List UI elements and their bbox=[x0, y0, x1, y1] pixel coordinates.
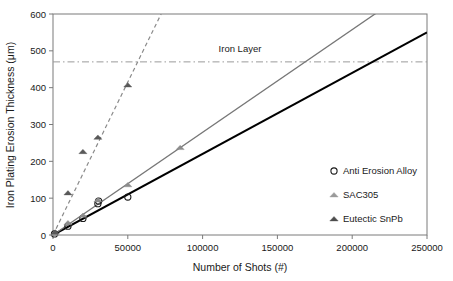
legend-label-sac305: SAC305 bbox=[343, 189, 378, 200]
legend-label-anti-erosion-alloy: Anti Erosion Alloy bbox=[343, 165, 417, 176]
x-axis-title: Number of Shots (#) bbox=[193, 261, 288, 273]
y-tick-label: 0 bbox=[41, 230, 46, 241]
x-tick-label: 200000 bbox=[336, 242, 368, 253]
iron-layer-annotation-label: Iron Layer bbox=[219, 43, 262, 54]
chart-container: 050000100000150000200000250000 010020030… bbox=[0, 0, 453, 281]
legend-label-eutectic-snpb: Eutectic SnPb bbox=[343, 213, 403, 224]
x-tick-label: 0 bbox=[50, 242, 55, 253]
x-tick-label: 250000 bbox=[411, 242, 443, 253]
erosion-thickness-scatter-chart: 050000100000150000200000250000 010020030… bbox=[0, 0, 453, 281]
y-axis-title: Iron Plating Erosion Thickness (μm) bbox=[4, 42, 16, 208]
y-tick-label: 600 bbox=[30, 9, 46, 20]
x-tick-label: 150000 bbox=[262, 242, 294, 253]
x-tick-label: 100000 bbox=[187, 242, 219, 253]
y-tick-label: 300 bbox=[30, 119, 46, 130]
x-tick-label: 50000 bbox=[115, 242, 141, 253]
y-tick-label: 100 bbox=[30, 193, 46, 204]
y-tick-label: 400 bbox=[30, 82, 46, 93]
y-tick-label: 200 bbox=[30, 156, 46, 167]
y-tick-label: 500 bbox=[30, 45, 46, 56]
